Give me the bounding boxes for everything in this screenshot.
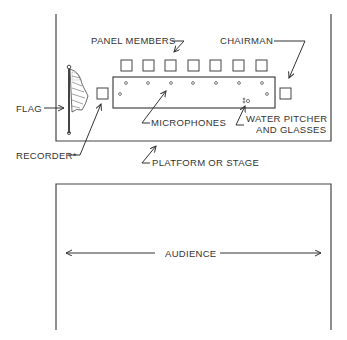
chair [256,60,267,71]
chairman-pointer [274,41,305,78]
panel-discussion-layout-diagram: PANEL MEMBERS CHAIRMAN FLAG RECORDER* MI… [0,0,347,340]
chair [121,60,132,71]
label-water-line2: AND GLASSES [256,124,326,135]
microphones [119,82,269,96]
chair [143,60,154,71]
label-platform: PLATFORM OR STAGE [152,157,259,168]
water-pitcher-icon [243,98,249,103]
water-pointer [236,106,245,125]
chair [210,60,221,71]
label-panel-members: PANEL MEMBERS [91,35,176,46]
chairman-chair [280,88,291,99]
label-flag: FLAG [16,103,42,114]
label-chairman: CHAIRMAN [220,35,273,46]
label-water-line1: WATER PITCHER [246,113,327,124]
label-microphones: MICROPHONES [151,117,226,128]
chair [188,60,199,71]
label-recorder: RECORDER* [16,150,77,161]
panel-member-chairs [121,60,267,71]
chair [165,60,176,71]
chair [233,60,244,71]
label-audience: AUDIENCE [165,248,217,259]
recorder-chair [97,88,108,99]
flag-icon [67,65,88,134]
